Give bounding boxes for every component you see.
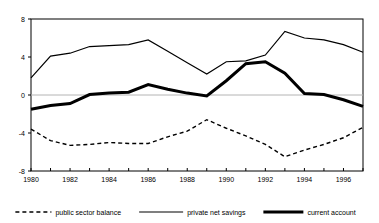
chart-background — [0, 0, 379, 223]
x-tick-label: 1986 — [140, 176, 156, 183]
y-tick-label: 4 — [21, 54, 25, 61]
y-tick-label: 8 — [21, 16, 25, 23]
legend-label: current account — [307, 209, 355, 216]
x-tick-label: 1996 — [336, 176, 352, 183]
chart-container: 840-4-8 19801982198419861988199019921994… — [0, 0, 379, 223]
x-tick-label: 1990 — [219, 176, 235, 183]
x-tick-label: 1980 — [23, 176, 39, 183]
x-tick-label: 1992 — [258, 176, 274, 183]
y-tick-label: -8 — [19, 168, 25, 175]
x-tick-label: 1994 — [297, 176, 313, 183]
x-tick-label: 1988 — [179, 176, 195, 183]
y-tick-label: -4 — [19, 130, 25, 137]
x-tick-label: 1982 — [62, 176, 78, 183]
legend-label: public sector balance — [55, 209, 121, 217]
x-tick-label: 1984 — [101, 176, 117, 183]
legend-label: private net savings — [187, 209, 246, 217]
y-tick-label: 0 — [21, 92, 25, 99]
line-chart: 840-4-8 19801982198419861988199019921994… — [0, 0, 379, 223]
